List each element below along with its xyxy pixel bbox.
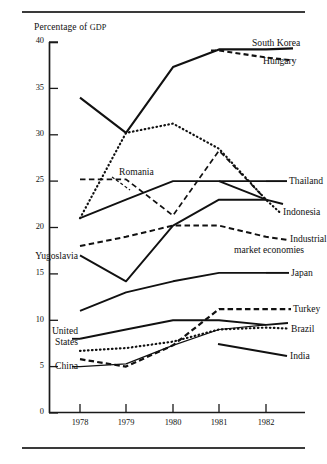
y-tick-label-35: 35 [25, 83, 44, 92]
plot-canvas [0, 0, 327, 464]
series-label-united-states-line1: United [30, 326, 78, 337]
y-tick-label-40: 40 [25, 36, 44, 45]
series-label-industrial-line1: Industrial [290, 234, 327, 245]
x-tick-marks [80, 404, 266, 412]
series-leader-yugoslavia [266, 200, 283, 204]
x-tick-label-1980: 1980 [155, 418, 191, 427]
series-line-romania [80, 151, 266, 216]
series-line-indonesia [80, 124, 280, 219]
chart-figure: Percentage of GDP [0, 0, 327, 464]
series-label-industrial-line2: market economies [234, 245, 327, 256]
series-line-turkey [80, 309, 291, 367]
series-line-united-states [80, 320, 288, 339]
series-label-yugoslavia: Yugoslavia [32, 251, 78, 262]
series-label-japan: Japan [291, 268, 313, 279]
series-line-japan [80, 273, 266, 311]
series-label-industrial-market-economies: Industrial market economies [290, 234, 327, 255]
series-label-turkey: Turkey [293, 304, 320, 315]
series-label-brazil: Brazil [291, 324, 314, 335]
y-tick-label-10: 10 [25, 315, 44, 324]
series-label-thailand: Thailand [289, 176, 323, 187]
series-label-hungary: Hungary [263, 56, 297, 67]
series-label-romania: Romania [119, 167, 154, 178]
series-line-china [72, 325, 266, 367]
x-tick-label-1978: 1978 [62, 418, 98, 427]
series-leader-south-korea [266, 48, 293, 49]
x-tick-label-1979: 1979 [108, 418, 144, 427]
y-tick-label-20: 20 [25, 222, 44, 231]
series-label-china: China [32, 361, 78, 372]
series-label-united-states-line2: States [30, 337, 78, 348]
series-line-brazil [80, 328, 289, 351]
series-label-india: India [290, 351, 310, 362]
series-label-south-korea: South Korea [252, 38, 300, 49]
y-tick-label-15: 15 [25, 268, 44, 277]
x-tick-label-1982: 1982 [248, 418, 284, 427]
series-line-thailand-branch [219, 181, 266, 200]
series-line-india [218, 344, 287, 356]
series-label-indonesia: Indonesia [283, 207, 320, 218]
series-line-south-korea [80, 49, 266, 132]
y-tick-label-0: 0 [25, 407, 44, 416]
y-tick-label-25: 25 [25, 175, 44, 184]
series-label-united-states: United States [30, 326, 78, 347]
x-tick-label-1981: 1981 [201, 418, 237, 427]
y-tick-label-30: 30 [25, 129, 44, 138]
